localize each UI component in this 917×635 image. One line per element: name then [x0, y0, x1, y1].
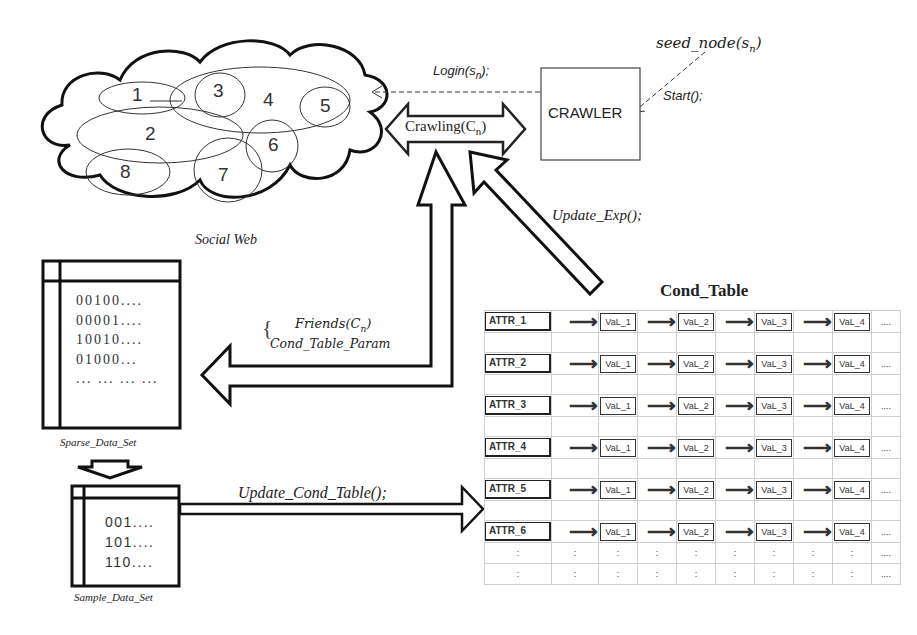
attr-cell: ATTR_1 [485, 312, 551, 331]
node-4: 4 [263, 89, 274, 111]
ellipsis-cell: : [485, 543, 552, 564]
arrow-icon: ⟶ [803, 436, 832, 458]
more-cell: .... [872, 479, 901, 501]
value-cell: VaL_3 [756, 439, 791, 457]
arrow-icon: ⟶ [725, 436, 754, 458]
update-exp-label: Update_Exp(); [552, 207, 642, 224]
value-cell: VaL_3 [756, 523, 791, 541]
attr-cell: ATTR_3 [485, 396, 551, 415]
cond-table-row: ATTR_1⟶VaL_1⟶VaL_2⟶VaL_3⟶VaL_4.... [485, 311, 901, 333]
arrow-icon: ⟶ [647, 436, 676, 458]
arrow-icon: ⟶ [725, 352, 754, 374]
ellipsis-cell: : [599, 564, 638, 585]
more-cell: .... [872, 395, 901, 417]
arrow-icon: ⟶ [725, 520, 754, 542]
seed-node-label: seed_node(sn) [656, 34, 762, 54]
value-cell: VaL_1 [600, 481, 635, 499]
value-cell: VaL_2 [678, 523, 713, 541]
ellipsis-cell: : [716, 543, 755, 564]
start-dashed-arrow [632, 52, 705, 113]
value-cell: VaL_2 [678, 439, 713, 457]
ellipsis-cell: : [794, 564, 833, 585]
login-label: Login(sn); [433, 63, 489, 81]
cond-table-ellipsis-row: :::::::::.... [485, 543, 901, 564]
arrow-icon: ⟶ [569, 436, 598, 458]
value-cell: VaL_1 [600, 439, 635, 457]
value-cell: VaL_4 [834, 523, 869, 541]
arrow-icon: ⟶ [725, 478, 754, 500]
value-cell: VaL_3 [756, 313, 791, 331]
ellipsis-cell: : [833, 564, 872, 585]
sample-data-rows: 001.... 101.... 110.... [105, 512, 154, 572]
cond-table-title: Cond_Table [660, 281, 748, 301]
node-7: 7 [218, 164, 229, 186]
node-8: 8 [120, 161, 131, 183]
sparse-data-rows: 00100.... 00001.... 10010.... 01000... .… [76, 291, 159, 389]
sparse-data-set-label: Sparse_Data_Set [60, 436, 136, 448]
ellipsis-cell: : [833, 543, 872, 564]
social-web-cloud [42, 41, 387, 197]
sample-row: 101.... [105, 532, 154, 552]
sample-data-set-label: Sample_Data_Set [74, 591, 153, 603]
ellipsis-more-cell: .... [872, 543, 901, 564]
attr-cell: ATTR_6 [485, 522, 551, 541]
crawling-label: Crawling(Cn) [405, 118, 486, 137]
arrow-icon: ⟶ [569, 394, 598, 416]
ellipsis-cell: : [638, 543, 677, 564]
friends-label: Friends(Cn) [295, 316, 371, 334]
arrow-icon: ⟶ [803, 520, 832, 542]
value-cell: VaL_2 [678, 355, 713, 373]
ellipsis-cell: : [552, 564, 599, 585]
cond-table-spacer-row [485, 375, 901, 395]
more-cell: .... [872, 353, 901, 375]
node-6: 6 [268, 134, 279, 156]
arrow-icon: ⟶ [569, 310, 598, 332]
cond-table-spacer-row [485, 501, 901, 521]
value-cell: VaL_2 [678, 481, 713, 499]
cond-table-row: ATTR_3⟶VaL_1⟶VaL_2⟶VaL_3⟶VaL_4.... [485, 395, 901, 417]
node-2: 2 [145, 123, 156, 145]
node-3: 3 [213, 80, 224, 102]
arrow-icon: ⟶ [569, 352, 598, 374]
cond-table: ATTR_1⟶VaL_1⟶VaL_2⟶VaL_3⟶VaL_4....ATTR_2… [484, 310, 901, 585]
more-cell: .... [872, 521, 901, 543]
value-cell: VaL_2 [678, 397, 713, 415]
value-cell: VaL_4 [834, 355, 869, 373]
ellipsis-more-cell: .... [872, 564, 901, 585]
cond-table-row: ATTR_6⟶VaL_1⟶VaL_2⟶VaL_3⟶VaL_4.... [485, 521, 901, 543]
cond-table-row: ATTR_4⟶VaL_1⟶VaL_2⟶VaL_3⟶VaL_4.... [485, 437, 901, 459]
ellipsis-cell: : [755, 543, 794, 564]
value-cell: VaL_1 [600, 313, 635, 331]
arrow-icon: ⟶ [725, 394, 754, 416]
value-cell: VaL_4 [834, 397, 869, 415]
value-cell: VaL_4 [834, 313, 869, 331]
sparse-row: 01000... [76, 350, 159, 370]
cond-table-spacer-row [485, 333, 901, 353]
cond-table-spacer-row [485, 417, 901, 437]
value-cell: VaL_4 [834, 481, 869, 499]
ellipsis-cell: : [599, 543, 638, 564]
sparse-row: ... ... ... ... [76, 369, 159, 389]
arrow-icon: ⟶ [647, 478, 676, 500]
value-cell: VaL_1 [600, 523, 635, 541]
more-cell: .... [872, 311, 901, 333]
sparse-row: 00001.... [76, 311, 159, 331]
arrow-icon: ⟶ [569, 520, 598, 542]
attr-cell: ATTR_2 [485, 354, 551, 373]
value-cell: VaL_4 [834, 439, 869, 457]
arrow-icon: ⟶ [725, 310, 754, 332]
arrow-icon: ⟶ [647, 352, 676, 374]
start-label: Start(); [663, 88, 703, 103]
arrow-icon: ⟶ [803, 352, 832, 374]
ellipsis-cell: : [677, 564, 716, 585]
arrow-icon: ⟶ [803, 394, 832, 416]
crawler-label: CRAWLER [548, 104, 622, 121]
cond-table-spacer-row [485, 459, 901, 479]
more-cell: .... [872, 437, 901, 459]
value-cell: VaL_2 [678, 313, 713, 331]
ellipsis-cell: : [677, 543, 716, 564]
value-cell: VaL_3 [756, 355, 791, 373]
update-cond-table-label: Update_Cond_Table(); [238, 484, 387, 502]
arrow-icon: ⟶ [803, 478, 832, 500]
value-cell: VaL_1 [600, 355, 635, 373]
